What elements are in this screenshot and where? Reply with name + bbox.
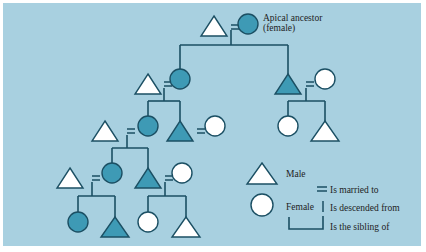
node-g3-female-circle[interactable]	[138, 116, 158, 136]
marriage-equals-g3-right	[197, 129, 205, 133]
descent-group-g4-left	[78, 182, 115, 217]
marriage-equals-g2-right	[306, 82, 314, 86]
apical-ancestor-line1: Apical ancestor	[263, 13, 322, 23]
node-g3-male2-triangle[interactable]	[167, 121, 193, 141]
node-g5-female-circle[interactable]	[68, 212, 88, 232]
legend-female-circle-icon	[251, 194, 273, 216]
node-g3-male3-triangle[interactable]	[311, 121, 339, 141]
legend-descended-label: Is descended from	[330, 203, 400, 213]
marriage-equals-g4-right	[165, 176, 173, 180]
node-g2-male-triangle[interactable]	[135, 74, 161, 94]
legend-female-label: Female	[286, 202, 314, 212]
kinship-diagram-svg: .ln { stroke: #1b4f63; stroke-width: 1.6…	[0, 0, 426, 252]
node-g5-male2-triangle[interactable]	[172, 217, 200, 237]
node-g5-female2-circle[interactable]	[138, 212, 158, 232]
descent-group-g1	[180, 30, 288, 74]
legend-married-label: Is married to	[330, 185, 379, 195]
marriage-equals-g4-left	[92, 176, 100, 180]
node-g4-male-triangle[interactable]	[57, 168, 83, 188]
node-g2-female2-circle[interactable]	[315, 69, 335, 89]
node-g4-female-circle[interactable]	[102, 163, 122, 183]
marriage-equals-g3-left	[127, 129, 135, 133]
node-g4-male2-triangle[interactable]	[135, 168, 161, 188]
legend-sibling-bracket-icon	[289, 216, 323, 229]
figure-page: .ln { stroke: #1b4f63; stroke-width: 1.6…	[0, 0, 426, 252]
node-g1-female-circle-apical[interactable]	[238, 14, 258, 34]
legend-married-equals-icon	[317, 187, 327, 191]
node-g3-female2-circle[interactable]	[205, 116, 225, 136]
legend-sibling-label: Is the sibling of	[330, 222, 389, 232]
node-g4-female2-circle[interactable]	[172, 163, 192, 183]
node-g2-male2-triangle[interactable]	[275, 74, 301, 94]
node-g3-male-triangle[interactable]	[92, 121, 118, 141]
node-g2-female-circle[interactable]	[170, 69, 190, 89]
node-g1-male-triangle[interactable]	[201, 16, 227, 36]
legend-male-label: Male	[286, 169, 306, 179]
legend-male-triangle-icon	[247, 163, 277, 184]
apical-ancestor-line2: (female)	[263, 23, 295, 33]
node-g3-female3-circle[interactable]	[278, 116, 298, 136]
apical-ancestor-label: Apical ancestor(female)	[263, 13, 322, 33]
node-g5-male-triangle[interactable]	[101, 217, 129, 237]
